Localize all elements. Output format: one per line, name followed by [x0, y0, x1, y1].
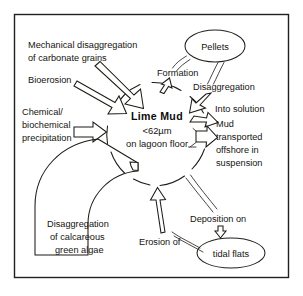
chemical-label-line2: biochemical: [22, 120, 71, 130]
arrow-into-solution: [190, 113, 218, 128]
mud-transport-line4: suspension: [216, 158, 262, 168]
chemical-label-line1: Chemical/: [22, 107, 63, 117]
into-solution-label: Into solution: [215, 104, 265, 114]
deposition-label: Deposition on: [190, 214, 246, 224]
green-algae-label-line1: Disaggregation: [47, 219, 109, 229]
center-title: Lime Mud: [131, 110, 183, 122]
arrow-erosion: [151, 188, 166, 234]
center-size-line: <62µm: [142, 125, 171, 136]
bioerosion-label: Bioerosion: [28, 75, 71, 85]
arrow-mud-transport: [196, 126, 218, 147]
erosion-label: Erosion of: [139, 237, 181, 247]
center-location-line: on lagoon floor: [126, 138, 188, 149]
mud-transport-line1: Mud: [216, 119, 234, 129]
figure-canvas: Lime Mud <62µm on lagoon floor Mechanica…: [0, 0, 303, 296]
lime-mud-cycle-diagram: Lime Mud <62µm on lagoon floor Mechanica…: [0, 0, 303, 296]
arrow-chemical-precipitation: [74, 122, 107, 142]
arrow-disaggregation: [190, 93, 212, 113]
mechanical-label-line1: Mechanical disaggregation: [28, 40, 137, 50]
mud-transport-line3: offshore in: [216, 145, 259, 155]
mud-transport-line2: transported: [216, 132, 262, 142]
mechanical-label-line2: of carbonate grains: [28, 53, 107, 63]
tidal-flats-label: tidal flats: [213, 249, 250, 259]
chemical-label-line3: precipitation: [22, 133, 72, 143]
green-algae-label-line2: of calcareous: [50, 232, 105, 242]
disaggregation-label: Disaggregation: [193, 82, 255, 92]
green-algae-label-line3: green algae: [55, 245, 104, 255]
arrow-formation: [160, 78, 172, 94]
pellets-label: Pellets: [201, 42, 229, 52]
arrow-deposition: [215, 226, 226, 238]
